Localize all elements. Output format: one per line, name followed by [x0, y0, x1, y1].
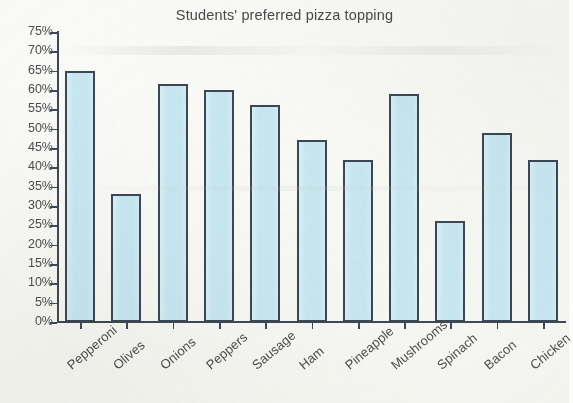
y-axis-tick-label: 20%: [7, 237, 53, 251]
y-axis-tick-label: 25%: [7, 217, 53, 231]
bar: [389, 94, 419, 322]
x-axis-tick-label: Pineapple: [342, 323, 397, 372]
bar: [158, 84, 188, 322]
y-axis-tick-label: 60%: [7, 82, 53, 96]
x-axis-tick-label: Peppers: [203, 329, 250, 372]
y-axis-tick-label: 55%: [7, 101, 53, 115]
x-axis-tick: [173, 322, 175, 329]
y-axis-tick-label: 30%: [7, 198, 53, 212]
chart-title: Students' preferred pizza topping: [0, 7, 569, 23]
y-axis-tick-label: 50%: [7, 121, 53, 135]
y-axis-tick-label: 75%: [7, 24, 53, 38]
bar: [343, 160, 373, 322]
x-axis-tick-label: Olives: [110, 337, 148, 372]
x-axis-tick-label: Chicken: [527, 330, 573, 372]
bar: [435, 221, 465, 322]
x-axis-tick: [543, 322, 545, 329]
y-axis-tick-label: 15%: [7, 256, 53, 270]
y-axis-tick-label: 10%: [7, 275, 53, 289]
x-axis-tick: [265, 322, 267, 329]
x-axis-tick-label: Spinach: [434, 330, 480, 372]
x-axis-tick: [358, 322, 360, 329]
y-axis-tick-label: 40%: [7, 159, 53, 173]
bar: [65, 71, 95, 322]
bar: [250, 105, 280, 322]
bar: [297, 140, 327, 322]
x-axis-tick: [497, 322, 499, 329]
y-axis-tick-label: 5%: [7, 295, 53, 309]
x-axis-tick: [126, 322, 128, 329]
y-axis-tick-label: 65%: [7, 63, 53, 77]
x-axis-tick: [219, 322, 221, 329]
bar: [111, 194, 141, 322]
x-axis-tick: [80, 322, 82, 329]
y-axis-tick-label: 0%: [7, 314, 53, 328]
bar: [482, 133, 512, 322]
x-axis-tick-label: Pepperoni: [64, 322, 120, 372]
bar: [528, 160, 558, 322]
y-axis-tick-label: 35%: [7, 179, 53, 193]
bar: [204, 90, 234, 322]
plot-area: 75%70%65%60%55%50%45%40%35%30%25%20%15%1…: [57, 32, 566, 322]
x-axis-tick: [450, 322, 452, 329]
x-axis-tick-label: Sausage: [249, 328, 299, 373]
x-axis-tick: [312, 322, 314, 329]
y-axis-tick-label: 45%: [7, 140, 53, 154]
x-axis-tick-label: Ham: [296, 343, 327, 372]
x-axis-tick-label: Onions: [157, 334, 199, 372]
x-axis-tick: [404, 322, 406, 329]
x-axis-tick-label: Bacon: [481, 337, 519, 373]
y-axis-tick-label: 70%: [7, 43, 53, 57]
